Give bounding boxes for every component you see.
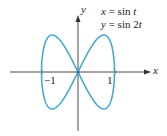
eq2-var: t — [139, 18, 142, 30]
y-axis-arrow-icon — [76, 15, 81, 22]
eq2-rhs: = sin 2 — [106, 18, 139, 30]
equation-y: y = sin 2t — [101, 18, 142, 30]
eq1-rhs: = sin — [106, 5, 133, 17]
tick-label-neg1: −1 — [44, 74, 56, 86]
x-axis-label: x — [153, 64, 158, 76]
tick-label-pos1: 1 — [107, 74, 113, 86]
eq1-var: t — [133, 5, 136, 17]
origin-point — [76, 70, 79, 73]
y-axis-label: y — [81, 3, 86, 15]
x-axis-arrow-icon — [144, 70, 151, 75]
equation-x: x = sin t — [101, 5, 136, 17]
